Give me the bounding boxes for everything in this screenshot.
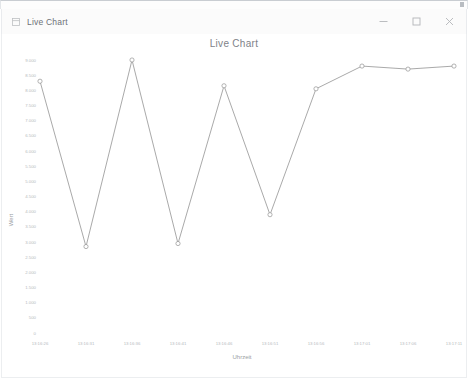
y-tick-label: 7.500 [25, 103, 36, 108]
maximize-button[interactable] [400, 9, 433, 34]
x-tick-label: 13:16:51 [262, 341, 279, 346]
window-titlebar[interactable]: Live Chart [1, 9, 467, 34]
data-point-marker[interactable] [406, 67, 410, 71]
y-tick-label: 6.000 [25, 149, 36, 154]
x-tick-label: 13:16:31 [78, 341, 95, 346]
chart-plot[interactable]: 9.0008.5008.0007.5007.0006.5006.0005.500… [2, 34, 466, 376]
y-tick-label: 1.000 [25, 300, 36, 305]
y-tick-label: 3.000 [25, 240, 36, 245]
data-point-marker[interactable] [268, 213, 272, 217]
x-tick-label: 13:16:26 [32, 341, 49, 346]
x-tick-label: 13:16:46 [216, 341, 233, 346]
y-tick-label: 9.000 [25, 58, 36, 63]
y-tick-label: 1.500 [25, 285, 36, 290]
y-tick-label: 5.500 [25, 164, 36, 169]
y-tick-label: 3.500 [25, 224, 36, 229]
y-tick-label: 6.500 [25, 133, 36, 138]
y-axis-label: Wert [8, 213, 14, 226]
minimize-button[interactable] [367, 9, 400, 34]
close-button[interactable] [433, 9, 466, 34]
x-axis-label: Uhrzeit [232, 354, 251, 360]
series-line [40, 60, 454, 247]
x-tick-label: 13:16:36 [124, 341, 141, 346]
window-frame-nub [460, 2, 464, 7]
data-series [38, 58, 456, 249]
y-tick-label: 7.000 [25, 118, 36, 123]
x-axis-ticks: 13:16:2613:16:3113:16:3613:16:4113:16:46… [32, 341, 463, 346]
y-tick-label: 2.500 [25, 255, 36, 260]
y-tick-label: 0 [34, 331, 37, 336]
window-client-area: Live Chart 9.0008.5008.0007.5007.0006.50… [1, 34, 467, 378]
x-tick-label: 13:16:56 [308, 341, 325, 346]
app-window: Live Chart Live Chart 9.0008.5008.0007.5… [0, 0, 468, 379]
data-point-marker[interactable] [360, 64, 364, 68]
y-tick-label: 4.500 [25, 194, 36, 199]
data-point-marker[interactable] [222, 84, 226, 88]
x-tick-label: 13:17:11 [446, 341, 463, 346]
data-point-marker[interactable] [452, 64, 456, 68]
y-tick-label: 4.000 [25, 209, 36, 214]
y-axis-ticks: 9.0008.5008.0007.5007.0006.5006.0005.500… [25, 58, 36, 336]
window-frame-top [0, 0, 468, 9]
y-tick-label: 8.500 [25, 73, 36, 78]
x-tick-label: 13:17:01 [354, 341, 371, 346]
maximize-icon [411, 16, 422, 27]
y-tick-label: 500 [29, 315, 37, 320]
y-tick-label: 2.000 [25, 270, 36, 275]
data-point-marker[interactable] [176, 241, 180, 245]
data-point-marker[interactable] [314, 87, 318, 91]
chart-container: Live Chart 9.0008.5008.0007.5007.0006.50… [2, 34, 466, 376]
close-icon [444, 16, 455, 27]
data-point-marker[interactable] [130, 58, 134, 62]
data-point-marker[interactable] [84, 244, 88, 248]
data-point-marker[interactable] [38, 79, 42, 83]
window-title: Live Chart [27, 17, 68, 27]
minimize-icon [378, 16, 389, 27]
x-tick-label: 13:16:41 [170, 341, 187, 346]
x-tick-label: 13:17:06 [400, 341, 417, 346]
y-tick-label: 5.000 [25, 179, 36, 184]
y-tick-label: 8.000 [25, 88, 36, 93]
app-window-icon [12, 18, 20, 26]
